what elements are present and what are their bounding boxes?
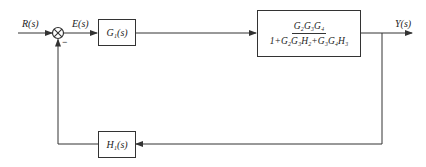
error-signal-label: E(s) [72, 19, 89, 29]
block-g1: G₁(s) [98, 19, 136, 46]
transfer-function-fraction: G₂G₃G₄ 1+G₂G₃H₂+G₃G₄H₃ [270, 21, 349, 46]
block-h1: H₁(s) [98, 131, 136, 158]
block-g1-label: G₁(s) [106, 27, 127, 38]
output-signal-label: Y(s) [395, 19, 411, 29]
tf-denominator: 1+G₂G₃H₂+G₃G₄H₃ [270, 34, 349, 46]
input-signal-label: R(s) [22, 19, 39, 29]
feedback-sign: − [62, 38, 67, 47]
block-h1-label: H₁(s) [106, 139, 127, 150]
tf-numerator: G₂G₃G₄ [292, 21, 327, 34]
block-forward-tf: G₂G₃G₄ 1+G₂G₃H₂+G₃G₄H₃ [257, 10, 361, 57]
diagram-wires [0, 0, 426, 167]
